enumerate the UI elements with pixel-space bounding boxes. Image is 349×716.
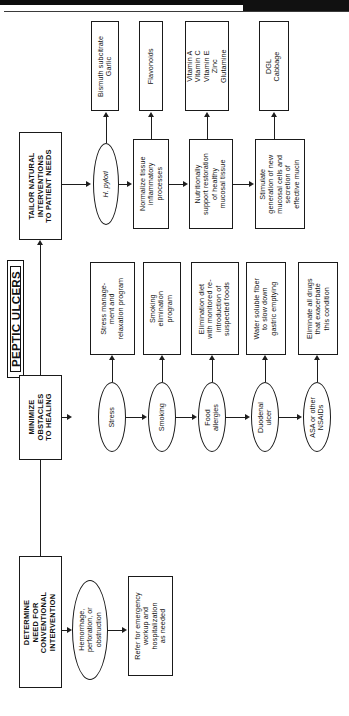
stage-header-tailor: TAILOR NATURALINTERVENTIONSTO PATIENT NE… <box>19 132 62 240</box>
edge-stress-to-intervention <box>112 360 113 382</box>
process-nutritional-support-label: Nutritionallysupport restorationof healt… <box>194 153 228 215</box>
edge-smoking-to-intervention <box>162 360 163 382</box>
intervention-elimination-diet: Elimination dietwith monitored re-introd… <box>191 262 239 355</box>
edge-duodenal-to-intervention <box>265 360 266 382</box>
edge-nutritional-to-stimulate-arrowhead <box>249 181 254 187</box>
condition-stress-label: Stress <box>108 407 116 427</box>
edge-stress-to-intervention-arrowhead <box>109 355 115 360</box>
edge-obstacles-chain-arrowhead-0 <box>67 414 72 420</box>
stage-header-obstacles-label: MINIMIZEOBSTACLESTO HEALING <box>27 394 53 441</box>
edge-nutritional-to-remedy <box>207 117 208 139</box>
condition-hemorrhage: Hemorrhage,perforation, orobstruction <box>72 580 108 680</box>
remedy-bismuth-garlic-label: Bismuth subcitrateGarlic <box>97 36 114 97</box>
intervention-emergency-referral-label: Refer for emergencyworkup andhospitaliza… <box>134 592 168 659</box>
edge-food-allergies-to-duodenal <box>226 417 245 418</box>
edge-stress-to-smoking-arrowhead <box>142 414 147 420</box>
edge-normalize-to-nutritional-arrowhead <box>183 181 188 187</box>
edge-duodenal-to-asa <box>279 417 297 418</box>
edge-duodenal-to-asa-arrowhead <box>297 414 302 420</box>
edge-duodenal-to-intervention-arrowhead <box>262 355 268 360</box>
edge-normalize-to-nutritional <box>169 184 183 185</box>
edge-food-allergies-to-duodenal-arrowhead <box>245 414 250 420</box>
page-top-rule <box>4 11 349 12</box>
process-normalize-inflammation: Normalize tissueinflammatoryprocesses <box>133 139 169 229</box>
intervention-eliminate-drugs: Eliminate all drugsthat exacerbatethis c… <box>298 262 338 355</box>
edge-conventional-to-hemorrhage-arrowhead <box>67 627 72 633</box>
remedy-bismuth-garlic: Bismuth subcitrateGarlic <box>91 21 119 111</box>
edge-tailor-to-h-pylori-arrowhead <box>86 181 91 187</box>
edge-nutritional-to-stimulate <box>233 184 249 185</box>
edge-smoking-to-intervention-arrowhead <box>159 355 165 360</box>
condition-smoking: Smoking <box>148 382 176 452</box>
remedy-flavonoids: Flavonoids <box>139 21 163 111</box>
condition-duodenal-ulcer: Duodenalulcer <box>251 382 279 452</box>
edge-smoking-to-food-allergies-arrowhead <box>192 414 197 420</box>
remedy-vitamins: Vitamin AVitamin CVitamin EZincGlutamine <box>185 21 229 111</box>
condition-duodenal-ulcer-label: Duodenalulcer <box>257 402 274 433</box>
stage-header-tailor-label: TAILOR NATURALINTERVENTIONSTO PATIENT NE… <box>27 149 53 222</box>
edge-nutritional-to-remedy-arrowhead <box>204 112 210 117</box>
edge-tailor-to-h-pylori <box>62 184 86 185</box>
condition-stress: Stress <box>98 382 126 452</box>
condition-h-pylori-label: H. pylori <box>102 171 110 197</box>
edge-h-pylori-to-remedy-arrowhead <box>103 112 109 117</box>
process-nutritional-support: Nutritionallysupport restorationof healt… <box>189 139 233 229</box>
edge-food-allergies-to-intervention <box>212 360 213 382</box>
stage-header-conventional-label: DETERMINENEED FORCONVENTIONALINTERVENTIO… <box>23 591 58 653</box>
edge-asa-to-intervention <box>317 360 318 382</box>
remedy-vitamins-label: Vitamin AVitamin CVitamin EZincGlutamine <box>186 49 228 83</box>
process-stimulate-mucin: Stimulategeneration of newmucosal cells … <box>255 139 305 229</box>
remedy-dgl-cabbage: DGLCabbage <box>259 21 289 111</box>
intervention-eliminate-drugs-label: Eliminate all drugsthat exacerbatethis c… <box>305 278 330 339</box>
edge-normalize-to-remedy-arrowhead <box>148 112 154 117</box>
stage-header-conventional: DETERMINENEED FORCONVENTIONALINTERVENTIO… <box>19 556 62 688</box>
edge-stimulate-to-remedy-arrowhead <box>271 112 277 117</box>
condition-smoking-label: Smoking <box>158 403 166 431</box>
intervention-stress-management: Stress manage-ment andrelaxation program <box>90 262 135 355</box>
condition-food-allergies: Foodallergies <box>198 382 226 452</box>
edge-obstacles-to-tailor <box>40 245 41 375</box>
edge-food-allergies-to-intervention-arrowhead <box>209 355 215 360</box>
edge-h-pylori-to-normalize-arrowhead <box>127 181 132 187</box>
remedy-dgl-cabbage-label: DGLCabbage <box>266 51 283 81</box>
edge-conventional-to-obstacles <box>40 460 41 556</box>
intervention-smoking-program: Smokingeliminationprogram <box>143 262 181 355</box>
condition-asa-nsaids-label: ASA or otherNSAIDs <box>309 397 326 438</box>
condition-food-allergies-label: Foodallergies <box>204 404 221 431</box>
condition-hemorrhage-label: Hemorrhage,perforation, orobstruction <box>77 608 102 653</box>
process-normalize-inflammation-label: Normalize tissueinflammatoryprocesses <box>138 157 163 212</box>
edge-h-pylori-to-normalize <box>119 184 127 185</box>
edge-smoking-to-food-allergies <box>176 417 192 418</box>
intervention-elimination-diet-label: Elimination dietwith monitored re-introd… <box>198 279 232 338</box>
intervention-soluble-fiber: Water soluble fiberto slow downgastric e… <box>246 262 286 355</box>
intervention-smoking-program-label: Smokingeliminationprogram <box>149 291 174 326</box>
page-title-banner-inner-rule <box>10 266 21 372</box>
condition-h-pylori: H. pylori <box>93 143 119 225</box>
page-top-corner-block <box>243 0 349 11</box>
intervention-soluble-fiber-label: Water soluble fiberto slow downgastric e… <box>253 278 278 340</box>
edge-asa-to-intervention-arrowhead <box>314 355 320 360</box>
condition-asa-nsaids: ASA or otherNSAIDs <box>303 382 331 452</box>
edge-hemorrhage-to-referral-arrowhead <box>122 627 127 633</box>
edge-normalize-to-remedy <box>151 117 152 139</box>
edge-obstacles-to-tailor-arrowhead <box>37 240 43 245</box>
edge-stress-to-smoking <box>126 417 142 418</box>
process-stimulate-mucin-label: Stimulategeneration of newmucosal cells … <box>259 155 301 214</box>
edge-h-pylori-to-remedy <box>106 117 107 143</box>
remedy-flavonoids-label: Flavonoids <box>147 48 155 84</box>
edge-hemorrhage-to-referral <box>108 630 122 631</box>
intervention-stress-management-label: Stress manage-ment andrelaxation program <box>100 278 125 340</box>
edge-stimulate-to-remedy <box>274 117 275 139</box>
intervention-emergency-referral: Refer for emergencyworkup andhospitaliza… <box>128 576 173 676</box>
stage-header-obstacles: MINIMIZEOBSTACLESTO HEALING <box>19 375 62 460</box>
